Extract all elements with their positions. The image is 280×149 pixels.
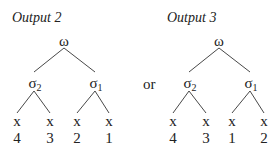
leaf-index: 3: [46, 131, 54, 146]
leaf-index: 1: [228, 131, 236, 146]
leaf-index: 4: [13, 131, 21, 146]
sigma-2-node: σ2: [183, 76, 196, 93]
leaf-var: x: [228, 114, 236, 129]
leaf-index: 4: [169, 131, 177, 146]
sigma-2-node: σ2: [28, 76, 41, 93]
leaf-index: 3: [202, 131, 210, 146]
leaf-var: x: [73, 114, 81, 129]
leaf-var: x: [13, 114, 21, 129]
diagram-title: Output 2: [12, 10, 61, 26]
root-node: ω: [59, 34, 69, 49]
leaf-var: x: [169, 114, 177, 129]
leaf-index: 2: [73, 131, 81, 146]
sigma-1-node: σ1: [244, 76, 257, 93]
or-connector: or: [143, 77, 156, 92]
leaf-index: 2: [260, 131, 268, 146]
diagram-title: Output 3: [167, 10, 216, 26]
leaf-var: x: [260, 114, 268, 129]
leaf-var: x: [105, 114, 113, 129]
leaf-index: 1: [105, 131, 113, 146]
sigma-1-node: σ1: [89, 76, 102, 93]
root-node: ω: [214, 34, 224, 49]
leaf-var: x: [202, 114, 210, 129]
leaf-var: x: [46, 114, 54, 129]
